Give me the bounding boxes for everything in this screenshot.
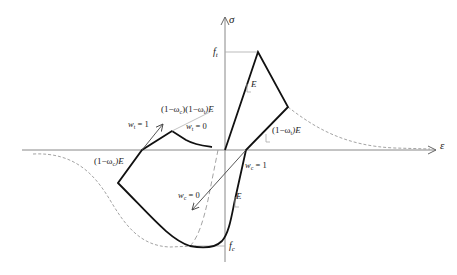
compression-unloading-slope-label: (1−ωc)E	[94, 156, 124, 167]
combined-damage-slope-label: (1−ωc)(1−ωt)E	[161, 104, 214, 115]
E-tension-label: E	[250, 79, 257, 89]
wc-equals-0-label: wc = 0	[178, 190, 200, 201]
wt-slope-tick	[266, 134, 270, 142]
wt-equals-1-label: wt = 1	[128, 119, 149, 130]
wc-arrow	[192, 150, 246, 210]
ft-label: ft	[213, 46, 219, 59]
wc-equals-1-label: wc = 1	[245, 160, 267, 171]
stress-strain-diagram: σ ε ft fc E E (1−ωt)E (1−ωc)E (1−ωc)(1−ω…	[0, 0, 457, 275]
epsilon-axis-label: ε	[440, 139, 445, 151]
tension-softening-dashed	[288, 107, 430, 149]
compression-envelope-dashed	[33, 154, 195, 247]
wt-equals-0-label: wt = 0	[186, 121, 207, 132]
sigma-axis-label: σ	[229, 13, 235, 25]
tension-unloading-slope-label: (1−ωt)E	[272, 125, 301, 136]
diagram-canvas: σ ε ft fc E E (1−ωt)E (1−ωc)E (1−ωc)(1−ω…	[0, 0, 457, 275]
fc-label: fc	[229, 240, 236, 253]
E-compression-label: E	[235, 191, 242, 201]
